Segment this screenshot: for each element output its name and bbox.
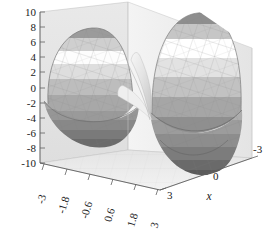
z-tick-label: -4 bbox=[27, 112, 37, 124]
z-tick-label: 6 bbox=[31, 36, 37, 48]
z-tick-label: 0 bbox=[31, 82, 37, 94]
x-axis-label: x bbox=[205, 190, 212, 202]
z-tick-label: -10 bbox=[21, 157, 36, 169]
z-tick-label: 8 bbox=[31, 21, 37, 33]
x-tick-label: 0 bbox=[213, 170, 219, 182]
surface-plot-figure: 10 8 6 4 2 0 -2 -4 -6 -8 -10 -3 -1.8 - bbox=[0, 0, 270, 244]
z-tick-label: -8 bbox=[27, 142, 37, 154]
z-tick-label: 4 bbox=[31, 51, 37, 63]
z-tick-label: 2 bbox=[31, 66, 37, 78]
z-tick-label: -6 bbox=[27, 127, 37, 139]
z-tick-label: -2 bbox=[27, 97, 36, 109]
z-tick-label: 10 bbox=[25, 6, 37, 18]
plot-canvas: 10 8 6 4 2 0 -2 -4 -6 -8 -10 -3 -1.8 - bbox=[0, 0, 270, 244]
x-tick-label: -3 bbox=[253, 143, 263, 155]
x-tick-label: 3 bbox=[167, 189, 173, 201]
